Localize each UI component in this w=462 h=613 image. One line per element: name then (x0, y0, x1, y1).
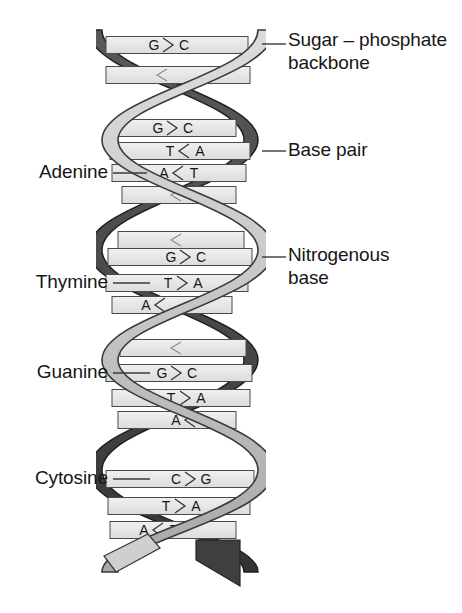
base-letter-left: G (157, 365, 168, 381)
base-pair-rung (120, 340, 246, 357)
base-letter-right: C (196, 249, 206, 265)
dna-helix-illustration: GCGCTAATGCTAAGCTAACGTAAT (0, 0, 462, 613)
base-pair-band (106, 37, 248, 54)
base-letter-left: A (141, 297, 151, 313)
callout-thymine: Thymine (8, 270, 108, 293)
callout-adenine: Adenine (8, 160, 108, 183)
base-letter-left: G (166, 249, 177, 265)
base-letter-left: T (162, 498, 171, 514)
callout-cytosine: Cytosine (8, 466, 108, 489)
base-letter-right: C (183, 120, 193, 136)
callout-nitrogenous-base: Nitrogenous base (288, 243, 460, 289)
base-pair-rung (118, 232, 244, 249)
base-letter-right: T (190, 165, 199, 181)
base-pair-rung: TA (110, 143, 250, 160)
base-pair-rung: GC (118, 120, 236, 137)
base-pair-rung: GC (108, 249, 252, 266)
base-letter-right: A (191, 498, 201, 514)
base-letter-right: A (193, 275, 203, 291)
base-letter-right: C (187, 365, 197, 381)
dna-diagram-figure: GCGCTAATGCTAAGCTAACGTAAT Sugar – phospha… (0, 0, 462, 613)
base-letter-right: G (201, 471, 212, 487)
base-pair-band (120, 340, 246, 357)
base-letter-left: G (149, 37, 160, 53)
base-letter-left: C (171, 471, 181, 487)
base-letter-left: T (164, 275, 173, 291)
base-pair-rung: GC (106, 37, 248, 54)
base-letter-right: A (196, 390, 206, 406)
base-letter-left: T (166, 143, 175, 159)
callout-base-pair: Base pair (288, 138, 460, 161)
base-letter-right: A (195, 143, 205, 159)
callout-guanine: Guanine (8, 360, 108, 383)
callout-sugar-phosphate-backbone: Sugar – phosphate backbone (288, 28, 460, 74)
base-letter-left: G (153, 120, 164, 136)
base-pair-band (108, 249, 252, 266)
base-letter-right: C (179, 37, 189, 53)
